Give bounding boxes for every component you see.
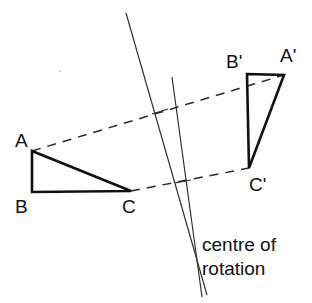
vertex-label-b-prime: B' [226,51,242,72]
centre-of-rotation-caption-line1: centre of [202,234,277,255]
paper-speck [59,70,61,72]
vertex-label-a: A [15,130,28,151]
triangle-abc [32,151,131,192]
vertex-label-a-prime: A' [280,45,296,66]
perpendicular-bisector-aa-prime [126,13,207,295]
vertex-label-c-prime: C' [249,174,266,195]
triangle-a-prime-b-prime-c-prime [247,74,284,168]
centre-of-rotation-caption-line2: rotation [202,258,265,279]
connector-c-to-c-prime [131,168,249,191]
diagram-canvas: A B C B' A' C' centre of rotation [0,0,312,303]
vertex-label-b: B [15,196,28,217]
vertex-label-c: C [122,196,136,217]
rotation-diagram: A B C B' A' C' centre of rotation [0,0,312,303]
